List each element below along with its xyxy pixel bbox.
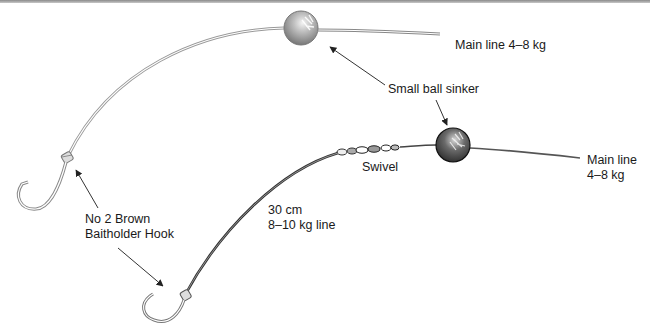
top-hook-knot	[61, 151, 74, 164]
hook-text-1: No 2 Brown	[85, 212, 174, 227]
top-main-line	[318, 30, 440, 34]
swivel-text: Swivel	[362, 160, 398, 174]
leader-text-2: 8–10 kg line	[268, 218, 335, 233]
bottom-hook	[144, 294, 184, 321]
sinker-text: Small ball sinker	[388, 82, 479, 96]
label-hook: No 2 Brown Baitholder Hook	[85, 212, 174, 242]
label-small-ball-sinker: Small ball sinker	[388, 82, 479, 97]
arrow-to-top-sinker	[330, 47, 385, 85]
label-leader: 30 cm 8–10 kg line	[268, 203, 335, 233]
label-top-main-line: Main line 4–8 kg	[455, 38, 546, 53]
top-sinker	[284, 11, 318, 45]
arrow-to-bottom-hook	[118, 248, 163, 286]
arrow-to-top-hook	[76, 170, 98, 208]
bottom-rig	[144, 128, 580, 321]
arrow-to-bottom-sinker	[436, 100, 447, 125]
bottom-main-line-text-1: Main line	[587, 153, 637, 168]
bottom-swivel-line	[400, 145, 436, 147]
bottom-main-line-text-2: 4–8 kg	[587, 168, 637, 183]
bottom-hook-knot	[180, 289, 192, 301]
bottom-sinker	[436, 128, 470, 162]
label-swivel: Swivel	[362, 160, 398, 175]
swivel	[337, 145, 399, 155]
top-hook	[18, 162, 66, 209]
top-main-line-text: Main line 4–8 kg	[455, 38, 546, 52]
rig-diagram: Main line 4–8 kg Small ball sinker Main …	[0, 0, 650, 334]
label-bottom-main-line: Main line 4–8 kg	[587, 153, 637, 183]
hook-text-2: Baitholder Hook	[85, 227, 174, 242]
diagram-artwork	[0, 0, 650, 334]
bottom-main-line	[470, 148, 580, 158]
leader-text-1: 30 cm	[268, 203, 335, 218]
top-leader-line	[68, 28, 284, 156]
